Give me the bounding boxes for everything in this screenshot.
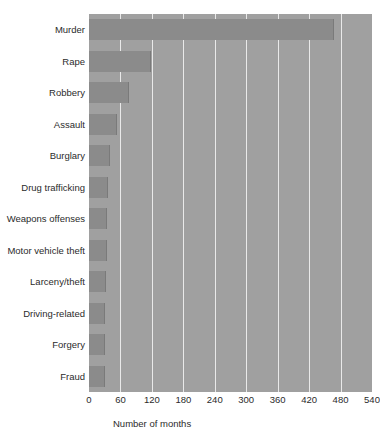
x-tick-label: 180 xyxy=(175,395,191,405)
category-label-row: Driving-related xyxy=(0,298,85,330)
x-tick-label: 240 xyxy=(207,395,223,405)
bar xyxy=(89,334,105,355)
x-tick-label: 480 xyxy=(333,395,349,405)
bar-chart: MurderRapeRobberyAssaultBurglaryDrug tra… xyxy=(0,0,380,440)
x-tick-label: 120 xyxy=(144,395,160,405)
category-label: Weapons offenses xyxy=(7,214,85,224)
category-label-row: Burglary xyxy=(0,140,85,172)
plot-area xyxy=(89,14,372,392)
bar xyxy=(89,208,107,229)
x-tick-label: 360 xyxy=(270,395,286,405)
x-tick-label: 420 xyxy=(301,395,317,405)
x-tick-label: 60 xyxy=(115,395,126,405)
category-label: Driving-related xyxy=(23,309,85,319)
category-axis-labels: MurderRapeRobberyAssaultBurglaryDrug tra… xyxy=(0,14,85,392)
x-axis-title: Number of months xyxy=(113,419,191,429)
bar-row xyxy=(89,172,372,204)
category-label-row: Fraud xyxy=(0,361,85,393)
category-label: Robbery xyxy=(49,88,85,98)
bar-row xyxy=(89,77,372,109)
category-label-row: Motor vehicle theft xyxy=(0,235,85,267)
category-label-row: Assault xyxy=(0,109,85,141)
category-label-row: Weapons offenses xyxy=(0,203,85,235)
x-tick-label: 300 xyxy=(238,395,254,405)
bar xyxy=(89,240,107,261)
bar-row xyxy=(89,109,372,141)
bar xyxy=(89,51,151,72)
category-label: Forgery xyxy=(52,340,85,350)
bar-row xyxy=(89,235,372,267)
category-label: Burglary xyxy=(50,151,85,161)
bar xyxy=(89,366,105,387)
bar-row xyxy=(89,329,372,361)
bar xyxy=(89,114,117,135)
category-label-row: Rape xyxy=(0,46,85,78)
bar-row xyxy=(89,266,372,298)
bar-row xyxy=(89,14,372,46)
bar xyxy=(89,82,129,103)
category-label: Motor vehicle theft xyxy=(7,246,85,256)
category-label: Rape xyxy=(62,57,85,67)
bar xyxy=(89,145,110,166)
bar xyxy=(89,271,106,292)
category-label-row: Robbery xyxy=(0,77,85,109)
category-label-row: Murder xyxy=(0,14,85,46)
category-label: Drug trafficking xyxy=(21,183,85,193)
bar-row xyxy=(89,203,372,235)
category-label-row: Drug trafficking xyxy=(0,172,85,204)
x-tick-label: 0 xyxy=(86,395,91,405)
bar xyxy=(89,303,105,324)
x-tick-label: 540 xyxy=(364,395,380,405)
x-axis-tick-labels: 060120180240300360420480540 xyxy=(89,395,372,409)
bar-row xyxy=(89,140,372,172)
category-label: Larceny/theft xyxy=(30,277,85,287)
category-label-row: Forgery xyxy=(0,329,85,361)
bar-row xyxy=(89,46,372,78)
bar-row xyxy=(89,298,372,330)
category-label: Fraud xyxy=(60,372,85,382)
category-label: Assault xyxy=(54,120,85,130)
bar xyxy=(89,19,334,40)
bar xyxy=(89,177,108,198)
category-label: Murder xyxy=(55,25,85,35)
category-label-row: Larceny/theft xyxy=(0,266,85,298)
bar-row xyxy=(89,361,372,393)
